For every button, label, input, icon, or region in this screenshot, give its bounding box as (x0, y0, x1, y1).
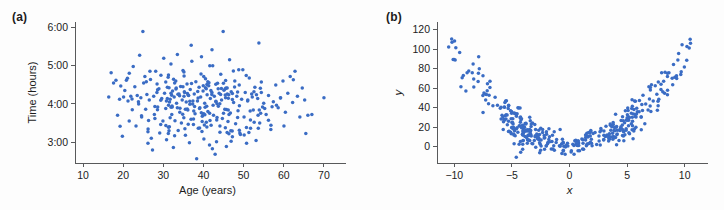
svg-text:0: 0 (567, 169, 573, 181)
svg-text:6:00: 6:00 (48, 21, 69, 33)
panel-a-plot: 3:004:005:006:0010203040506070Age (years… (0, 0, 362, 210)
svg-text:40: 40 (198, 169, 210, 181)
svg-text:20: 20 (117, 169, 129, 181)
svg-text:3:00: 3:00 (48, 136, 69, 148)
svg-text:5: 5 (624, 169, 630, 181)
panel-a: (a) 3:004:005:006:0010203040506070Age (y… (0, 0, 362, 210)
panel-b-plot: 020406080100120−10−50510xy (362, 0, 724, 210)
svg-text:30: 30 (157, 169, 169, 181)
figure-two-panel-scatter: (a) 3:004:005:006:0010203040506070Age (y… (0, 0, 724, 210)
svg-text:20: 20 (418, 121, 430, 133)
svg-text:y: y (392, 88, 404, 96)
svg-text:60: 60 (418, 82, 430, 94)
svg-text:50: 50 (238, 169, 250, 181)
svg-text:0: 0 (424, 140, 430, 152)
svg-text:40: 40 (418, 101, 430, 113)
svg-text:60: 60 (278, 169, 290, 181)
svg-text:x: x (566, 184, 574, 196)
svg-text:100: 100 (412, 43, 430, 55)
svg-text:120: 120 (412, 23, 430, 35)
svg-text:Age (years): Age (years) (179, 184, 236, 196)
svg-text:10: 10 (77, 169, 89, 181)
svg-text:4:00: 4:00 (48, 98, 69, 110)
panel-b: (b) 020406080100120−10−50510xy (362, 0, 724, 210)
svg-text:80: 80 (418, 62, 430, 74)
svg-text:−10: −10 (445, 169, 463, 181)
svg-text:5:00: 5:00 (48, 59, 69, 71)
svg-text:10: 10 (679, 169, 691, 181)
svg-text:70: 70 (318, 169, 330, 181)
svg-text:−5: −5 (506, 169, 518, 181)
svg-text:Time (hours): Time (hours) (26, 62, 38, 124)
